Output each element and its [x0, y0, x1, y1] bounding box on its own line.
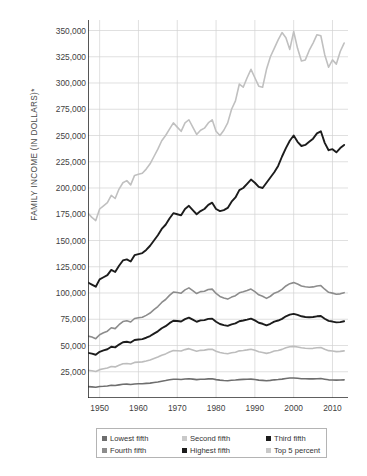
- legend-item[interactable]: Lowest fifth: [102, 434, 182, 443]
- legend-swatch-icon: [102, 436, 107, 441]
- y-tick-label: 325,000: [34, 52, 86, 62]
- legend-swatch-icon: [182, 436, 187, 441]
- y-tick-label: 200,000: [34, 183, 86, 193]
- y-tick-label: 250,000: [34, 131, 86, 141]
- legend-label: Top 5 percent: [274, 446, 320, 455]
- legend-label: Second fifth: [190, 434, 230, 443]
- x-tick-label: 1960: [129, 403, 148, 413]
- y-tick-label: 75,000: [34, 314, 86, 324]
- x-tick-label: 1970: [168, 403, 187, 413]
- family-income-line-chart: FAMILY INCOME (IN DOLLARS)* 25,00050,000…: [0, 0, 367, 476]
- x-tick-label: 1990: [246, 403, 265, 413]
- y-tick-label: 350,000: [34, 26, 86, 36]
- legend-label: Fourth fifth: [110, 446, 146, 455]
- plot-svg: [88, 20, 348, 398]
- legend-item[interactable]: Fourth fifth: [102, 446, 182, 455]
- legend-swatch-icon: [266, 436, 271, 441]
- legend-swatch-icon: [182, 448, 187, 453]
- y-tick-label: 50,000: [34, 341, 86, 351]
- x-tick-label: 1980: [207, 403, 226, 413]
- y-tick-label: 225,000: [34, 157, 86, 167]
- x-tick-label: 1950: [90, 403, 109, 413]
- y-tick-label: 150,000: [34, 236, 86, 246]
- legend-label: Third fifth: [274, 434, 306, 443]
- legend-swatch-icon: [102, 448, 107, 453]
- y-tick-label: 25,000: [34, 367, 86, 377]
- y-tick-label: 100,000: [34, 288, 86, 298]
- y-tick-label: 125,000: [34, 262, 86, 272]
- legend-item[interactable]: Third fifth: [266, 434, 321, 443]
- legend-label: Lowest fifth: [110, 434, 148, 443]
- x-tick-label: 2000: [284, 403, 303, 413]
- chart-legend: Lowest fifthSecond fifthThird fifthFourt…: [96, 428, 327, 458]
- plot-area: [88, 20, 348, 398]
- x-tick-label: 2010: [323, 403, 342, 413]
- legend-label: Highest fifth: [190, 446, 230, 455]
- legend-swatch-icon: [266, 448, 271, 453]
- legend-item[interactable]: Top 5 percent: [266, 446, 321, 455]
- legend-item[interactable]: Highest fifth: [182, 446, 266, 455]
- y-tick-label: 275,000: [34, 104, 86, 114]
- x-axis-tick-labels: 1950196019701980199020002010: [88, 403, 358, 417]
- y-axis-tick-labels: 25,00050,00075,000100,000125,000150,0001…: [30, 20, 86, 398]
- y-tick-label: 300,000: [34, 78, 86, 88]
- legend-item[interactable]: Second fifth: [182, 434, 266, 443]
- y-tick-label: 175,000: [34, 209, 86, 219]
